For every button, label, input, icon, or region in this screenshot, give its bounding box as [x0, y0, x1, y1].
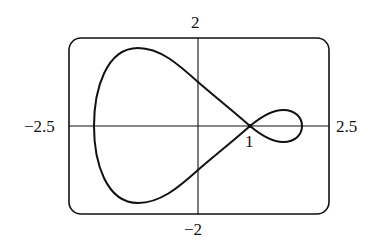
intersection-point: [248, 124, 252, 128]
chart-plot: [0, 0, 381, 243]
x-max-label: 2.5: [336, 118, 357, 135]
y-min-label: −2: [184, 221, 202, 238]
y-max-label: 2: [191, 14, 200, 31]
x-min-label: −2.5: [24, 118, 55, 135]
point-label: 1: [245, 133, 254, 150]
